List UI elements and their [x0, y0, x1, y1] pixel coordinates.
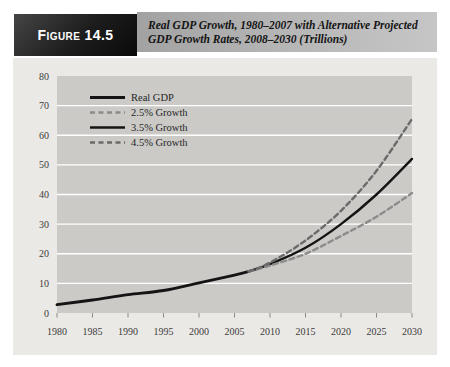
- x-tick-label: 1985: [83, 326, 103, 337]
- y-tick-label: 60: [39, 130, 49, 141]
- gdp-growth-chart: 0102030405060708019801985199019952000200…: [13, 58, 437, 355]
- y-tick-label: 50: [39, 159, 49, 170]
- figure-title-line-2: GDP Growth Rates, 2008–2030 (Trillions): [148, 32, 437, 47]
- chart-panel: 0102030405060708019801985199019952000200…: [13, 58, 437, 355]
- y-tick-label: 0: [44, 308, 49, 319]
- x-tick-label: 1990: [118, 326, 138, 337]
- y-tick-label: 20: [39, 248, 49, 259]
- y-tick-label: 10: [39, 278, 49, 289]
- x-tick-label: 2010: [260, 326, 280, 337]
- figure-title-line-1: Real GDP Growth, 1980–2007 with Alternat…: [148, 18, 437, 33]
- x-tick-label: 1995: [154, 326, 174, 337]
- legend-label-3: 3.5% Growth: [131, 122, 188, 133]
- figure-title-bar: Real GDP Growth, 1980–2007 with Alternat…: [137, 12, 437, 52]
- legend-label-2: 2.5% Growth: [131, 107, 188, 118]
- figure-container: Figure 14.5 Real GDP Growth, 1980–2007 w…: [0, 0, 450, 367]
- x-tick-label: 2015: [296, 326, 316, 337]
- figure-number-badge: Figure 14.5: [14, 14, 137, 56]
- x-tick-label: 2005: [225, 326, 245, 337]
- x-tick-label: 2025: [367, 326, 387, 337]
- x-tick-label: 2020: [331, 326, 351, 337]
- x-tick-label: 2000: [189, 326, 209, 337]
- x-tick-label: 2030: [402, 326, 422, 337]
- y-tick-label: 70: [39, 100, 49, 111]
- x-tick-label: 1980: [47, 326, 67, 337]
- y-tick-label: 80: [39, 71, 49, 82]
- y-tick-label: 30: [39, 219, 49, 230]
- legend-label-4: 4.5% Growth: [131, 137, 188, 148]
- figure-number-label: Figure 14.5: [38, 27, 114, 43]
- y-tick-label: 40: [39, 189, 49, 200]
- legend-label-1: Real GDP: [131, 92, 174, 103]
